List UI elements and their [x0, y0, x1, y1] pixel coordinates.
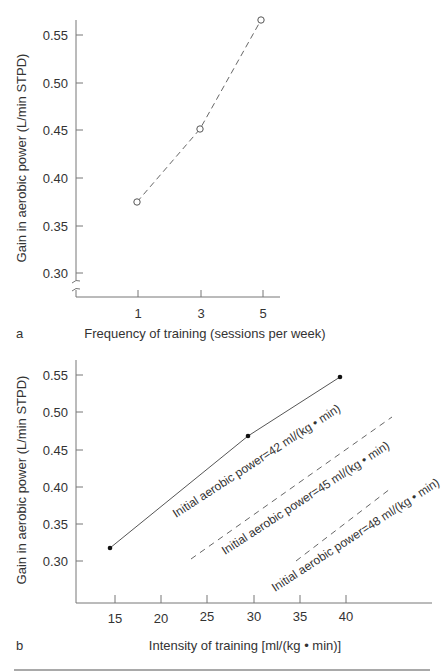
- chart-a-y-ticks: 0.55 0.50 0.45 0.40 0.35 0.30: [43, 28, 83, 281]
- panel-label-b: b: [16, 638, 23, 653]
- chart-b: 0.55 0.50 0.45 0.40 0.35 0.30 15 20 25 3…: [14, 360, 442, 653]
- annotation-48: Initial aerobic power=48 ml/(kg • min): [269, 475, 442, 594]
- y-tick-label: 0.45: [43, 443, 68, 458]
- data-point-marker: [108, 546, 113, 551]
- x-tick-label: 1: [134, 306, 141, 321]
- y-tick-label: 0.40: [43, 480, 68, 495]
- chart-b-y-ticks: 0.55 0.50 0.45 0.40 0.35 0.30: [43, 368, 83, 569]
- x-tick-label: 40: [339, 609, 353, 624]
- chart-b-series-42-line: [110, 377, 340, 548]
- data-point-marker: [246, 434, 251, 439]
- y-tick-label: 0.40: [43, 171, 68, 186]
- chart-b-y-axis-title: Gain in aerobic power (L/min STPD): [14, 376, 29, 585]
- chart-b-x-ticks: 15 20 25 30 35 40: [108, 595, 353, 626]
- chart-b-x-axis-title: Intensity of training [ml/(kg • min)]: [149, 638, 341, 653]
- figure: 0.55 0.50 0.45 0.40 0.35 0.30 1 3 5 Gain…: [0, 0, 442, 672]
- y-tick-label: 0.45: [43, 123, 68, 138]
- y-tick-label: 0.35: [43, 219, 68, 234]
- chart-a: 0.55 0.50 0.45 0.40 0.35 0.30 1 3 5 Gain…: [14, 17, 326, 341]
- x-tick-label: 5: [259, 306, 266, 321]
- y-tick-label: 0.50: [43, 405, 68, 420]
- axis-break-top: [72, 280, 80, 283]
- y-tick-label: 0.30: [43, 554, 68, 569]
- data-point-marker: [338, 375, 343, 380]
- x-tick-label: 25: [200, 609, 214, 624]
- chart-a-y-axis-title: Gain in aerobic power (L/min STPD): [14, 54, 29, 263]
- x-tick-label: 15: [108, 611, 122, 626]
- x-tick-label: 35: [293, 609, 307, 624]
- chart-a-series-line: [137, 20, 261, 202]
- y-tick-label: 0.55: [43, 28, 68, 43]
- y-tick-label: 0.30: [43, 266, 68, 281]
- y-tick-label: 0.55: [43, 368, 68, 383]
- x-tick-label: 20: [154, 611, 168, 626]
- data-point-marker: [134, 199, 140, 205]
- panel-label-a: a: [16, 326, 24, 341]
- chart-a-x-ticks: 1 3 5: [134, 290, 266, 321]
- y-tick-label: 0.35: [43, 517, 68, 532]
- x-tick-label: 30: [247, 609, 261, 624]
- y-tick-label: 0.50: [43, 76, 68, 91]
- annotation-42: Initial aerobic power=42 ml/(kg • min): [170, 401, 343, 520]
- annotation-45: Initial aerobic power=45 ml/(kg • min): [219, 438, 392, 557]
- chart-a-x-axis-title: Frequency of training (sessions per week…: [84, 326, 325, 341]
- data-point-marker: [197, 126, 203, 132]
- x-tick-label: 3: [197, 306, 204, 321]
- data-point-marker: [258, 17, 264, 23]
